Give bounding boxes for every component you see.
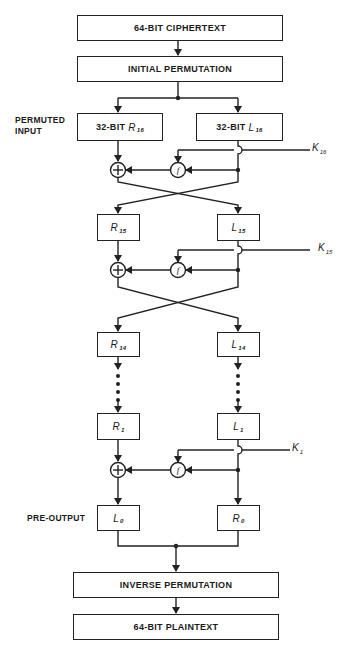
l15-box: L15: [217, 214, 260, 241]
r16-box: 32-BIT R16: [77, 113, 163, 141]
l0-box: L0: [97, 505, 140, 531]
key-k16-label: K16: [312, 142, 326, 153]
r15-box: R15: [97, 214, 140, 241]
inverse-permutation-box: INVERSE PERMUTATION: [73, 572, 279, 598]
plaintext-box: 64-BIT PLAINTEXT: [73, 614, 279, 640]
ciphertext-label: 64-BIT CIPHERTEXT: [134, 23, 226, 33]
r14-box: R14: [97, 332, 140, 357]
ciphertext-box: 64-BIT CIPHERTEXT: [77, 15, 283, 41]
permuted-input-label: PERMUTED INPUT: [15, 115, 75, 137]
r1-box: R1: [97, 413, 140, 440]
pre-output-label: PRE-OUTPUT: [27, 513, 85, 524]
l14-box: L14: [217, 332, 260, 357]
r0-box: R0: [217, 505, 260, 531]
l1-box: L1: [217, 413, 260, 440]
key-k15-label: K15: [318, 242, 332, 253]
initial-permutation-label: INITIAL PERMUTATION: [128, 64, 232, 74]
key-k1-label: K1: [292, 442, 303, 453]
l16-box: 32-BIT L16: [196, 113, 283, 141]
plaintext-label: 64-BIT PLAINTEXT: [134, 622, 219, 632]
inverse-permutation-label: INVERSE PERMUTATION: [120, 580, 232, 590]
flow-lines: f f f: [0, 0, 345, 653]
initial-permutation-box: INITIAL PERMUTATION: [77, 56, 283, 82]
